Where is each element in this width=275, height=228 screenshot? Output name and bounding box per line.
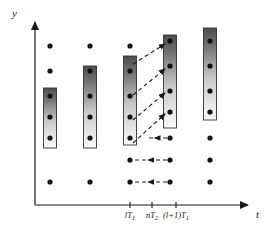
- column-5-dot-5: [207, 135, 212, 140]
- horizontal-arrowhead-3: [147, 179, 154, 185]
- column-5-dot-3: [207, 88, 212, 93]
- column-5-dot-4: [207, 109, 212, 114]
- timing-diagram-figure: y t lT1nT2(l+1)T1: [0, 0, 275, 228]
- column-2-dot-5: [87, 135, 92, 140]
- tick-label-subscript-1: 1: [132, 214, 135, 221]
- tick-label-subscript-2: 2: [155, 214, 158, 221]
- column-2-dot-6: [87, 179, 92, 184]
- column-4-dot-1: [167, 38, 172, 43]
- column-1-dot-1: [47, 43, 52, 48]
- column-3-dot-2: [127, 68, 132, 73]
- column-3-dot-7: [127, 179, 132, 184]
- column-2-dot-2: [87, 68, 92, 73]
- column-3-dot-4: [127, 114, 132, 119]
- column-2-dot-3: [87, 93, 92, 98]
- column-1-dot-6: [47, 179, 52, 184]
- column-4-dot-3: [167, 88, 172, 93]
- tick-label-2: nT2: [146, 211, 158, 220]
- x-axis-label: t: [256, 209, 259, 220]
- column-3-dot-3: [127, 93, 132, 98]
- column-2-dot-4: [87, 114, 92, 119]
- column-4-dot-5: [167, 135, 172, 140]
- tick-label-subscript-3: 1: [186, 214, 189, 221]
- tick-label-3: (l+1)T1: [163, 211, 189, 220]
- y-axis-label: y: [12, 8, 17, 19]
- diagonal-dashed-arrow-2: [133, 69, 165, 95]
- column-5-dot-1: [207, 38, 212, 43]
- horizontal-arrowhead-2: [147, 157, 154, 163]
- tick-label-1: lT1: [125, 211, 135, 220]
- column-1-dot-5: [47, 135, 52, 140]
- column-4-dot-6: [167, 157, 172, 162]
- diagonal-dashed-arrow-1: [133, 44, 165, 64]
- column-5-dot-7: [207, 179, 212, 184]
- column-2-dot-1: [87, 43, 92, 48]
- column-3-dot-5: [127, 135, 132, 140]
- column-3-dot-6: [127, 157, 132, 162]
- column-1-dot-2: [47, 68, 52, 73]
- horizontal-arrows-group: [133, 135, 167, 185]
- horizontal-arrowhead-1: [154, 135, 161, 141]
- diagonal-arrows-group: [133, 44, 165, 143]
- column-3-dot-1: [127, 43, 132, 48]
- diagonal-dashed-arrow-3: [133, 93, 165, 120]
- column-1-dot-3: [47, 93, 52, 98]
- diagram-canvas: [0, 0, 275, 228]
- column-1-dot-4: [47, 114, 52, 119]
- column-4-dot-2: [167, 63, 172, 68]
- column-4-dot-7: [167, 179, 172, 184]
- column-5-dot-6: [207, 157, 212, 162]
- column-5-dot-2: [207, 63, 212, 68]
- column-4-dot-4: [167, 109, 172, 114]
